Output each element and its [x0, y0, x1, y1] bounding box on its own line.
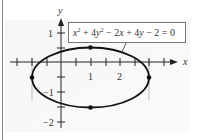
- equation-label: x2 + 4y2 − 2x + 4y − 2 = 0: [72, 27, 175, 38]
- x-tick-label-2: 2: [117, 71, 122, 82]
- x-axis-label: x: [182, 56, 188, 67]
- y-tick-label-minus2: −2: [43, 117, 54, 128]
- x-tick-label-1: 1: [88, 71, 93, 82]
- ellipse-graph: x y 1 2 1 −1 −2: [0, 0, 199, 140]
- y-tick-label-1: 1: [48, 28, 53, 39]
- figure: x y 1 2 1 −1 −2: [0, 0, 199, 140]
- y-axis-label: y: [57, 5, 63, 16]
